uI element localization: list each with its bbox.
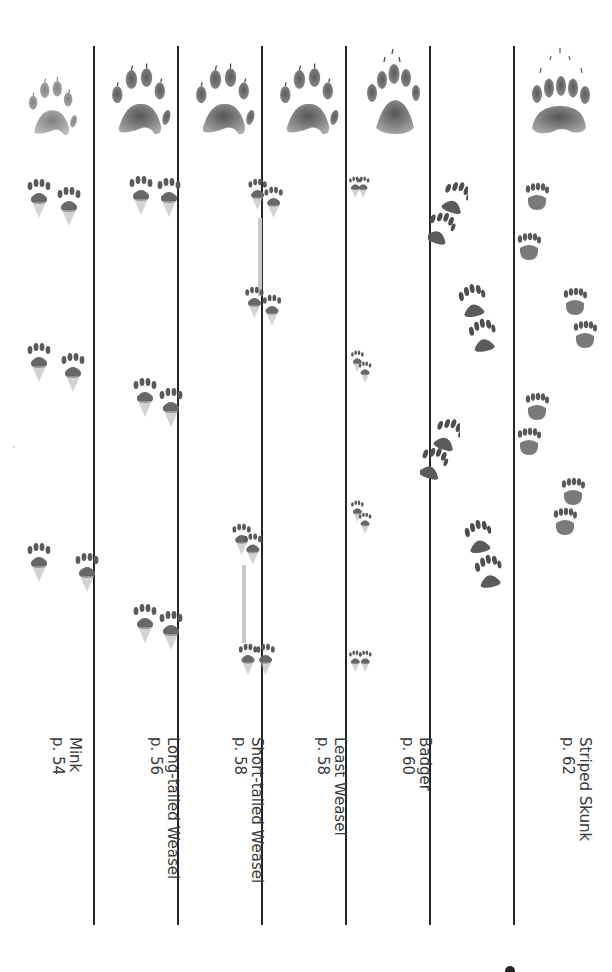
species-name: Badger bbox=[416, 737, 433, 791]
mink-track-icon bbox=[22, 342, 92, 402]
page-reference: p. 58 bbox=[314, 737, 331, 836]
mink-foot-icon bbox=[16, 70, 86, 140]
species-label: Striped Skunk p. 62 bbox=[559, 737, 593, 841]
short-tailed-weasel-foot-icon bbox=[188, 55, 258, 140]
badger-foot-icon bbox=[364, 48, 426, 140]
striped-skunk-track-icon bbox=[514, 230, 544, 262]
species-name: Mink bbox=[66, 737, 83, 775]
species-label: Long-tailed Weasel p. 56 bbox=[147, 737, 181, 879]
mink-track-icon bbox=[22, 542, 102, 602]
page-reference: p. 56 bbox=[147, 737, 164, 879]
species-label: Badger p. 60 bbox=[399, 737, 433, 791]
striped-skunk-track-icon bbox=[522, 180, 552, 216]
striped-skunk-track-icon bbox=[514, 425, 544, 457]
page-reference: p. 58 bbox=[231, 737, 248, 883]
striped-skunk-foot-icon bbox=[522, 48, 600, 140]
page-edge-mark bbox=[505, 966, 515, 972]
badger-track-icon bbox=[420, 415, 460, 490]
column-mink: Mink p. 54 bbox=[0, 0, 93, 971]
least-weasel-foot-icon bbox=[272, 55, 342, 140]
species-label: Mink p. 54 bbox=[49, 737, 83, 775]
species-label: Short-tailed Weasel p. 58 bbox=[231, 737, 265, 883]
striped-skunk-track-icon bbox=[570, 318, 600, 350]
badger-track-icon bbox=[458, 282, 498, 362]
long-tailed-weasel-foot-icon bbox=[104, 55, 174, 140]
page-reference: p. 54 bbox=[49, 737, 66, 775]
column-least-weasel: Least Weasel p. 58 bbox=[262, 0, 345, 971]
column-long-tailed-weasel: Long-tailed Weasel p. 56 bbox=[94, 0, 177, 971]
striped-skunk-track-icon bbox=[560, 285, 590, 321]
page-reference: p. 62 bbox=[559, 737, 576, 841]
species-name: Striped Skunk bbox=[576, 737, 593, 841]
badger-track-icon bbox=[428, 178, 468, 258]
page-reference: p. 60 bbox=[399, 737, 416, 791]
column-short-tailed-weasel: Short-tailed Weasel p. 58 bbox=[178, 0, 261, 971]
column-badger: Badger p. 60 bbox=[346, 0, 429, 971]
badger-track-icon bbox=[464, 518, 504, 598]
column-striped-skunk: Striped Skunk p. 62 bbox=[514, 0, 612, 971]
paper-speck bbox=[13, 446, 15, 448]
species-label: Least Weasel p. 58 bbox=[314, 737, 348, 836]
striped-skunk-track-icon bbox=[522, 390, 552, 426]
striped-skunk-track-icon bbox=[550, 505, 580, 537]
mink-track-icon bbox=[22, 178, 92, 238]
